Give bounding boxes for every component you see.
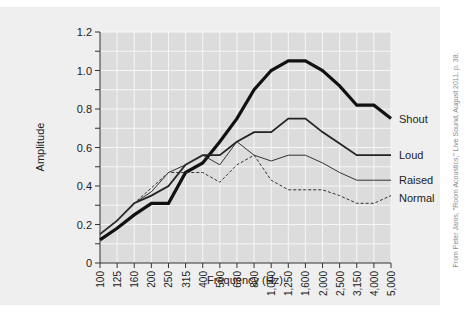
x-tick-label: 250 — [163, 271, 174, 288]
series-label-raised: Raised — [399, 174, 433, 186]
series-labels: ShoutLoudRaisedNormal — [399, 113, 434, 204]
source-credit: From Peter Janis, "Room Acoustics," Live… — [452, 53, 459, 268]
x-tick-label: 5,000 — [386, 271, 397, 296]
line-chart: 00.20.40.60.81.01.2 10012516020025031540… — [0, 0, 473, 319]
series-label-loud: Loud — [399, 149, 423, 161]
x-tick-label: 125 — [112, 271, 123, 288]
x-tick-label: 1,250 — [283, 271, 294, 296]
y-axis: 00.20.40.60.81.01.2 — [77, 26, 100, 269]
y-tick-label: 0.6 — [77, 142, 92, 154]
y-tick-label: 0.2 — [77, 219, 92, 231]
x-tick-label: 2,000 — [318, 271, 329, 296]
y-tick-label: 1.0 — [77, 65, 92, 77]
x-tick-label: 4,000 — [369, 271, 380, 296]
x-tick-label: 2,500 — [335, 271, 346, 296]
x-tick-label: 200 — [146, 271, 157, 288]
series-label-normal: Normal — [399, 192, 434, 204]
x-tick-label: 100 — [95, 271, 106, 288]
y-tick-label: 0.4 — [77, 180, 92, 192]
x-axis-title: Frequency (Hz) — [207, 274, 283, 286]
x-tick-label: 160 — [129, 271, 140, 288]
y-tick-label: 1.2 — [77, 26, 92, 38]
x-tick-label: 3,150 — [352, 271, 363, 296]
y-axis-title: Amplitude — [34, 123, 46, 172]
y-tick-label: 0 — [86, 257, 92, 269]
series-label-shout: Shout — [399, 113, 428, 125]
x-tick-label: 1,600 — [300, 271, 311, 296]
x-tick-label: 315 — [181, 271, 192, 288]
y-tick-label: 0.8 — [77, 103, 92, 115]
